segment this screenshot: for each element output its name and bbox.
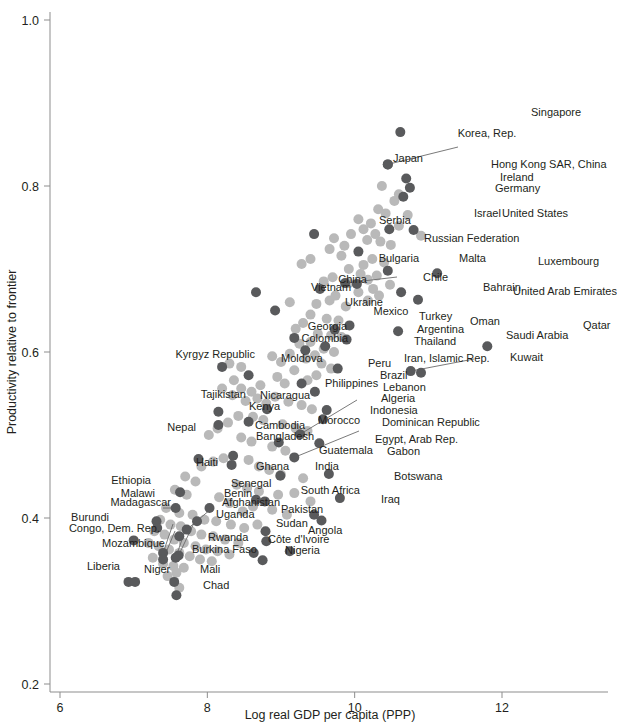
scatter-point-unlabeled[interactable] (311, 370, 321, 380)
scatter-point-labeled[interactable] (228, 451, 238, 461)
scatter-point-unlabeled[interactable] (377, 181, 387, 191)
scatter-point-unlabeled[interactable] (236, 362, 246, 372)
scatter-point-labeled[interactable] (251, 287, 261, 297)
scatter-point-labeled[interactable] (482, 341, 492, 351)
scatter-point-label: Algeria (381, 392, 416, 404)
scatter-point-labeled[interactable] (383, 159, 393, 169)
scatter-point-label: Peru (368, 357, 391, 369)
scatter-point-labeled[interactable] (383, 266, 393, 276)
scatter-point-labeled[interactable] (169, 577, 179, 587)
scatter-point-labeled[interactable] (401, 174, 411, 184)
scatter-point-labeled[interactable] (413, 295, 423, 305)
scatter-point-unlabeled[interactable] (336, 251, 346, 261)
y-axis-title: Productivity relative to frontier (5, 270, 19, 435)
scatter-point-labeled[interactable] (217, 362, 227, 372)
scatter-point-unlabeled[interactable] (311, 299, 321, 309)
scatter-point-label: Ghana (256, 460, 290, 472)
scatter-point-labeled[interactable] (333, 364, 343, 374)
scatter-point-labeled[interactable] (416, 368, 426, 378)
scatter-point-labeled[interactable] (289, 452, 299, 462)
scatter-point-unlabeled[interactable] (339, 241, 349, 251)
scatter-point-labeled[interactable] (227, 460, 237, 470)
scatter-point-unlabeled[interactable] (306, 254, 316, 264)
scatter-point-labeled[interactable] (297, 379, 307, 389)
scatter-point-labeled[interactable] (258, 555, 268, 565)
scatter-point-unlabeled[interactable] (252, 520, 262, 530)
scatter-point-unlabeled[interactable] (191, 477, 201, 487)
scatter-point-unlabeled[interactable] (359, 224, 369, 234)
scatter-point-unlabeled[interactable] (289, 488, 299, 498)
scatter-point-unlabeled[interactable] (247, 437, 257, 447)
scatter-point-unlabeled[interactable] (233, 411, 243, 421)
scatter-point-labeled[interactable] (409, 225, 419, 235)
scatter-point-labeled[interactable] (244, 417, 254, 427)
scatter-point-labeled[interactable] (275, 471, 285, 481)
scatter-point-label: Qatar (583, 319, 611, 331)
scatter-point-unlabeled[interactable] (297, 400, 307, 410)
scatter-point-labeled[interactable] (213, 420, 223, 430)
scatter-point-labeled[interactable] (309, 229, 319, 239)
scatter-point-labeled[interactable] (171, 590, 181, 600)
scatter-point-unlabeled[interactable] (196, 530, 206, 540)
scatter-point-labeled[interactable] (398, 192, 408, 202)
scatter-point-unlabeled[interactable] (291, 324, 301, 334)
scatter-point-labeled[interactable] (395, 127, 405, 137)
scatter-point-unlabeled[interactable] (346, 229, 356, 239)
scatter-point-labeled[interactable] (270, 306, 280, 316)
scatter-point-labeled[interactable] (130, 577, 140, 587)
scatter-point-labeled[interactable] (244, 370, 254, 380)
scatter-point-unlabeled[interactable] (226, 520, 236, 530)
scatter-point-labeled[interactable] (171, 553, 181, 563)
scatter-point-unlabeled[interactable] (353, 214, 363, 224)
scatter-point-unlabeled[interactable] (180, 472, 190, 482)
scatter-point-labeled[interactable] (213, 407, 223, 417)
scatter-point-unlabeled[interactable] (236, 433, 246, 443)
scatter-point-unlabeled[interactable] (329, 233, 339, 243)
scatter-point-unlabeled[interactable] (267, 351, 277, 361)
scatter-point-labeled[interactable] (175, 487, 185, 497)
scatter-point-unlabeled[interactable] (329, 347, 339, 357)
scatter-point-unlabeled[interactable] (385, 280, 395, 290)
scatter-point-label: Kyrgyz Republic (176, 348, 256, 360)
scatter-point-labeled[interactable] (192, 516, 202, 526)
scatter-point-unlabeled[interactable] (285, 297, 295, 307)
scatter-point-unlabeled[interactable] (375, 237, 385, 247)
scatter-point-labeled[interactable] (205, 503, 215, 513)
scatter-point-unlabeled[interactable] (229, 375, 239, 385)
scatter-point-label: Chile (423, 271, 448, 283)
scatter-point-unlabeled[interactable] (298, 473, 308, 483)
scatter-point-label: Iran, Islamic Rep. (404, 352, 490, 364)
x-axis-tick-label: 6 (57, 701, 64, 715)
scatter-point-unlabeled[interactable] (223, 418, 233, 428)
scatter-point-unlabeled[interactable] (171, 568, 181, 578)
scatter-point-unlabeled[interactable] (306, 310, 316, 320)
scatter-point-labeled[interactable] (182, 525, 192, 535)
scatter-point-unlabeled[interactable] (325, 244, 335, 254)
scatter-point-unlabeled[interactable] (367, 254, 377, 264)
scatter-point-labeled[interactable] (174, 531, 184, 541)
scatter-point-unlabeled[interactable] (204, 430, 214, 440)
scatter-point-unlabeled[interactable] (307, 404, 317, 414)
scatter-point-unlabeled[interactable] (280, 379, 290, 389)
scatter-point-label: Serbia (379, 214, 412, 226)
scatter-point-unlabeled[interactable] (280, 446, 290, 456)
scatter-point-unlabeled[interactable] (362, 235, 372, 245)
scatter-point-labeled[interactable] (171, 503, 181, 513)
scatter-point-labeled[interactable] (310, 387, 320, 397)
scatter-point-unlabeled[interactable] (386, 240, 396, 250)
scatter-point-unlabeled[interactable] (359, 260, 369, 270)
scatter-point-labeled[interactable] (405, 183, 415, 193)
scatter-point-label: Niger (144, 563, 171, 575)
scatter-point-unlabeled[interactable] (219, 453, 229, 463)
scatter-point-unlabeled[interactable] (244, 455, 254, 465)
scatter-point-label: Oman (470, 315, 500, 327)
scatter-point-labeled[interactable] (396, 287, 406, 297)
scatter-point-labeled[interactable] (289, 333, 299, 343)
scatter-point-label: Burkina Faso (192, 543, 257, 555)
scatter-point-unlabeled[interactable] (166, 520, 176, 530)
scatter-point-labeled[interactable] (353, 247, 363, 257)
scatter-point-unlabeled[interactable] (289, 365, 299, 375)
scatter-point-unlabeled[interactable] (297, 259, 307, 269)
scatter-point-unlabeled[interactable] (148, 553, 158, 563)
scatter-point-labeled[interactable] (393, 326, 403, 336)
